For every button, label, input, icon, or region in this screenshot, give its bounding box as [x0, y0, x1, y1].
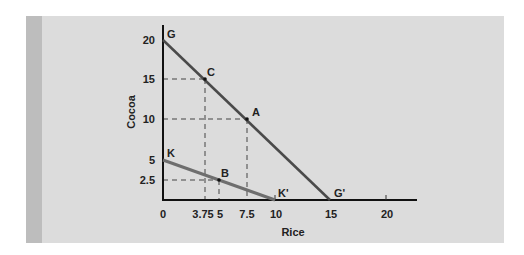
y-axis-label: Cocoa [125, 94, 137, 129]
x-tick-10: 10 [270, 208, 282, 220]
chart: 20 15 10 5 2.5 0 3.75 5 7.5 10 15 20 Ric… [0, 0, 524, 255]
point-label-Kprime: K' [278, 187, 289, 199]
x-tick-7-5: 7.5 [239, 208, 254, 220]
point-label-B: B [221, 167, 229, 179]
x-tick-15: 15 [325, 208, 337, 220]
y-tick-5: 5 [149, 154, 155, 166]
x-tick-20: 20 [381, 208, 393, 220]
y-tick-2-5: 2.5 [140, 174, 155, 186]
point-label-A: A [252, 106, 260, 118]
point-label-K: K [167, 147, 175, 159]
dashed-guides [163, 79, 247, 200]
point-label-Gprime: G' [334, 187, 346, 199]
y-tick-20: 20 [143, 34, 155, 46]
x-tick-5: 5 [217, 208, 223, 220]
y-tick-10: 10 [143, 113, 155, 125]
point-label-C: C [207, 66, 215, 78]
x-tick-3-75: 3.75 [192, 208, 213, 220]
x-tick-0: 0 [160, 208, 166, 220]
x-axis-label: Rice [281, 226, 304, 238]
y-tick-15: 15 [143, 73, 155, 85]
point-label-G: G [167, 28, 176, 40]
